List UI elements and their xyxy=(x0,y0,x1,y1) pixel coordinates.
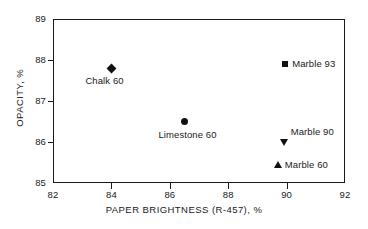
x-axis-tick-label: 84 xyxy=(96,190,126,200)
y-axis-tick-label: 85 xyxy=(20,178,46,188)
y-axis-title: OPACITY, % xyxy=(15,38,25,158)
x-axis-tick-label: 88 xyxy=(213,190,243,200)
data-point-label: Chalk 60 xyxy=(85,76,123,86)
square-marker-icon xyxy=(282,61,289,68)
y-axis-tick xyxy=(48,60,54,61)
x-axis-tick-label: 90 xyxy=(272,190,302,200)
data-point-label: Marble 60 xyxy=(285,160,328,170)
x-axis-tick-label: 92 xyxy=(330,190,360,200)
data-point-label: Marble 90 xyxy=(291,127,334,137)
triangle-up-marker-icon xyxy=(274,161,282,168)
data-point-label: Limestone 60 xyxy=(158,130,216,140)
x-axis-tick-label: 82 xyxy=(38,190,68,200)
x-axis-tick-label: 86 xyxy=(155,190,185,200)
y-axis-tick xyxy=(48,101,54,102)
circle-marker-icon xyxy=(181,118,188,125)
scatter-chart: 8586878889828486889092 Chalk 60Marble 93… xyxy=(0,0,368,229)
data-point-label: Marble 93 xyxy=(292,59,335,69)
y-axis-tick xyxy=(48,142,54,143)
triangle-down-marker-icon xyxy=(280,139,288,146)
x-axis-title: PAPER BRIGHTNESS (R-457), % xyxy=(0,205,368,215)
y-axis-tick-label: 89 xyxy=(20,14,46,24)
